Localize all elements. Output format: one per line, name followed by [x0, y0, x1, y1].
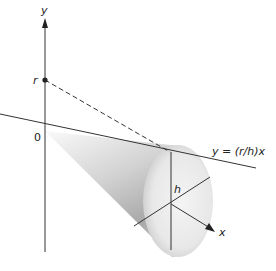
r-label: r: [33, 74, 39, 87]
y-axis-arrow-icon: [42, 18, 48, 28]
y-axis-label: y: [40, 4, 48, 17]
line-equation-label: y = (r/h)x: [211, 145, 266, 158]
h-label: h: [174, 183, 181, 196]
x-axis-label: x: [218, 226, 226, 239]
cone-base: [143, 145, 213, 257]
origin-label: 0: [34, 131, 41, 144]
cone-diagram: y r 0 h x y = (r/h)x: [0, 0, 276, 271]
r-point: [42, 77, 47, 82]
